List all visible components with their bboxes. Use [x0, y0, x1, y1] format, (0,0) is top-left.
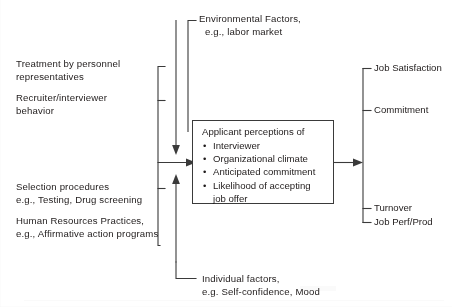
- center-box-item-organizational-climate-label: Organizational climate: [213, 153, 308, 164]
- left-input-recruiter-line-1: Recruiter/interviewer: [16, 91, 107, 104]
- left-input-recruiter-line-2: behavior: [16, 104, 107, 117]
- bracket-upper-left: [158, 67, 176, 163]
- center-box-item-interviewer: • Interviewer: [202, 139, 315, 152]
- outcome-label-job-satisfaction: Job Satisfaction: [374, 62, 442, 73]
- bullet-icon: •: [203, 152, 206, 165]
- outcome-label-commitment: Commitment: [374, 104, 428, 115]
- left-input-treatment-line-2: representatives: [16, 70, 120, 83]
- outcome-label-job-perf-prod: Job Perf/Prod: [374, 216, 433, 227]
- bottom-context-line-2: e.g. Self-confidence, Mood: [202, 285, 320, 298]
- bullet-icon: •: [203, 165, 206, 178]
- center-box-item-interviewer-label: Interviewer: [213, 140, 260, 151]
- left-input-recruiter: Recruiter/interviewer behavior: [16, 91, 107, 117]
- center-box-list: • Interviewer • Organizational climate •…: [202, 139, 315, 205]
- center-box-item-likelihood-wrap-label: job offer: [213, 193, 248, 204]
- arrowhead-top-context: [172, 145, 180, 155]
- arrowhead-bottom-context: [172, 174, 180, 184]
- bracket-bottom-context: [176, 262, 196, 279]
- center-box-item-likelihood-wrap: job offer: [202, 192, 315, 205]
- center-box-item-likelihood-accepting-label: Likelihood of accepting: [213, 180, 311, 191]
- top-context-line-1: Environmental Factors,: [199, 12, 301, 25]
- left-input-selection-line-1: Selection procedures: [16, 180, 142, 193]
- bullet-icon: •: [203, 179, 206, 192]
- center-box-item-likelihood-accepting: • Likelihood of accepting: [202, 179, 315, 192]
- left-input-hr-practices-line-1: Human Resources Practices,: [16, 214, 158, 227]
- diagram-canvas: Environmental Factors, e.g., labor marke…: [0, 0, 452, 307]
- left-input-hr-practices: Human Resources Practices, e.g., Affirma…: [16, 214, 158, 240]
- top-context-line-2: e.g., labor market: [199, 25, 301, 38]
- bottom-context-line-1: Individual factors,: [202, 272, 320, 285]
- bottom-context-label: Individual factors, e.g. Self-confidence…: [202, 272, 320, 298]
- applicant-perceptions-box: Applicant perceptions of • Interviewer •…: [192, 120, 334, 204]
- left-input-treatment: Treatment by personnel representatives: [16, 57, 120, 83]
- top-context-label: Environmental Factors, e.g., labor marke…: [199, 12, 301, 38]
- center-box-item-anticipated-commitment-label: Anticipated commitment: [213, 166, 315, 177]
- bracket-top-context: [188, 21, 196, 132]
- outcome-label-turnover: Turnover: [374, 202, 412, 213]
- left-input-hr-practices-line-2: e.g., Affirmative action programs: [16, 227, 158, 240]
- bullet-icon: •: [203, 139, 206, 152]
- scan-artifact-1: [24, 300, 444, 301]
- center-box-heading: Applicant perceptions of: [202, 126, 304, 137]
- arrowhead-box-to-outcomes: [353, 159, 363, 167]
- center-box-item-organizational-climate: • Organizational climate: [202, 152, 315, 165]
- left-input-selection: Selection procedures e.g., Testing, Drug…: [16, 180, 142, 206]
- left-input-selection-line-2: e.g., Testing, Drug screening: [16, 193, 142, 206]
- left-input-treatment-line-1: Treatment by personnel: [16, 57, 120, 70]
- center-box-item-anticipated-commitment: • Anticipated commitment: [202, 165, 315, 178]
